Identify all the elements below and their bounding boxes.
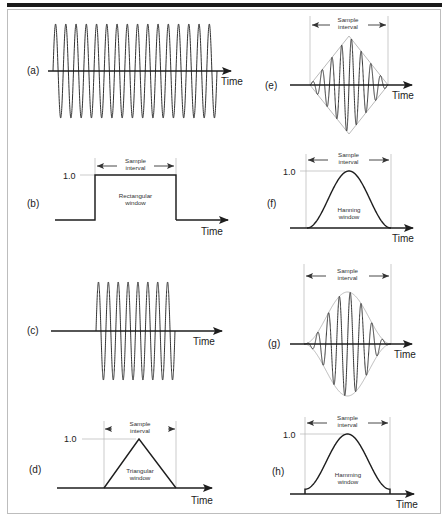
rectangular-window-shape: [55, 175, 176, 220]
time-label-a: Time: [221, 76, 243, 87]
panel-label-h: (h): [272, 466, 284, 477]
peak-label-d: 1.0: [64, 434, 77, 444]
panel-h: (h) Sample interval 1.0 Hamming window T…: [272, 414, 418, 510]
peak-label-f: 1.0: [283, 167, 296, 177]
panel-label-g: (g): [268, 338, 280, 349]
panel-label-d: (d): [29, 464, 41, 475]
panel-b: (b) Sample interval 1.0 Rectangular wind…: [27, 157, 228, 237]
panel-a: (a) Time: [27, 24, 243, 118]
interval-label-line2-h: interval: [338, 421, 358, 428]
time-label-e: Time: [392, 90, 414, 101]
panel-label-b: (b): [27, 198, 39, 209]
interval-label-line1-d: Sample: [130, 420, 152, 427]
time-label-d: Time: [191, 495, 213, 506]
interval-label-line1-b: Sample: [125, 157, 147, 164]
window-name-line2-h: window: [337, 478, 359, 485]
panel-c: (c) Time: [27, 282, 222, 380]
window-name-line1-h: Hamming: [335, 471, 362, 478]
hamming-window-shape: [305, 434, 390, 494]
panel-f: (f) Sample interval 1.0 Hanning window T…: [267, 151, 414, 244]
window-name-line1-b: Rectangular: [119, 192, 152, 199]
panel-e: (e) Sample interval Time: [265, 16, 414, 134]
interval-label-line2-g: interval: [338, 274, 358, 281]
panel-label-e: (e): [265, 80, 277, 91]
time-label-g: Time: [394, 349, 416, 360]
interval-label-line1-f: Sample: [338, 151, 360, 158]
panel-label-a: (a): [27, 65, 39, 76]
time-label-h: Time: [396, 499, 418, 510]
window-name-line2-d: window: [129, 474, 151, 481]
interval-label-line2-d: interval: [130, 427, 150, 434]
window-name-line1-f: Hanning: [337, 206, 361, 213]
interval-label-line1-g: Sample: [337, 267, 359, 274]
panel-d: (d) Sample interval 1.0 Triangular windo…: [29, 420, 213, 506]
interval-label-line1-e: Sample: [338, 16, 360, 23]
time-label-b: Time: [201, 226, 223, 237]
interval-label-line2-f: interval: [339, 158, 359, 165]
window-name-line2-f: window: [338, 213, 360, 220]
peak-label-b: 1.0: [63, 171, 76, 181]
window-name-line2-b: window: [124, 199, 146, 206]
window-name-line1-d: Triangular: [126, 467, 154, 474]
panel-label-f: (f): [267, 198, 276, 209]
panel-g: (g) Sample interval Time: [268, 264, 416, 396]
interval-label-line2-b: interval: [126, 164, 146, 171]
interval-label-line1-h: Sample: [337, 414, 359, 421]
time-label-c: Time: [193, 336, 215, 347]
window-functions-figure: (a) Time (b) Sample interval 1.0 Rectang…: [0, 0, 445, 521]
peak-label-h: 1.0: [283, 430, 296, 440]
interval-label-line2-e: interval: [338, 23, 358, 30]
panel-label-c: (c): [27, 325, 39, 336]
time-label-f: Time: [392, 233, 414, 244]
